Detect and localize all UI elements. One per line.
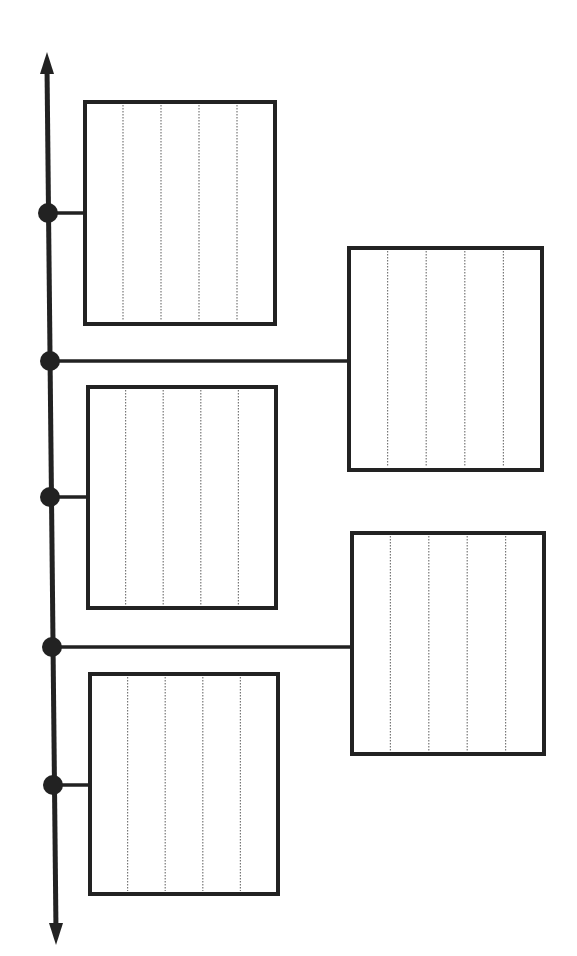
event-box-5[interactable] (90, 674, 278, 894)
timeline-node-4 (42, 637, 62, 657)
event-box-4[interactable] (352, 533, 544, 754)
event-box-3[interactable] (88, 387, 276, 608)
arrow-up-icon (40, 52, 54, 74)
timeline-node-5 (43, 775, 63, 795)
arrow-down-icon (49, 923, 63, 945)
timeline-node-3 (40, 487, 60, 507)
timeline-node-1 (38, 203, 58, 223)
event-box-2[interactable] (349, 248, 542, 470)
event-box-1[interactable] (85, 102, 275, 324)
timeline-node-2 (40, 351, 60, 371)
timeline-diagram (0, 0, 577, 956)
